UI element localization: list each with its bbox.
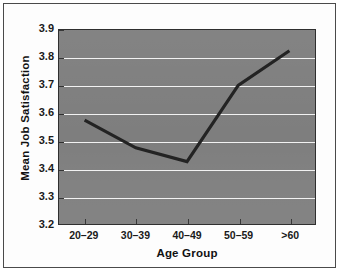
x-tick-label: 50–59: [224, 229, 253, 241]
y-tick-label: 3.4: [20, 163, 54, 174]
figure-frame: Mean Job Satisfaction 3.23.33.43.53.63.7…: [3, 3, 336, 268]
y-tick-label: 3.8: [20, 51, 54, 62]
y-tick-label: 3.2: [20, 219, 54, 230]
x-axis-tick-labels: 20–2930–3940–4950–59>60: [58, 229, 316, 245]
x-tick-label: 40–49: [172, 229, 201, 241]
x-tick-label: 20–29: [69, 229, 98, 241]
x-axis-title: Age Group: [58, 247, 316, 259]
y-tick-label: 3.6: [20, 107, 54, 118]
y-axis-tick-labels: 3.23.33.43.53.63.73.83.9: [14, 29, 54, 225]
series-polyline: [85, 51, 290, 162]
plot-area: [58, 29, 316, 225]
y-tick-label: 3.9: [20, 23, 54, 34]
plot-wrap: [58, 29, 316, 225]
y-tick-label: 3.3: [20, 191, 54, 202]
y-tick-label: 3.5: [20, 135, 54, 146]
x-tick-label: 30–39: [121, 229, 150, 241]
series-line-chart: [59, 30, 315, 224]
x-tick-label: >60: [281, 229, 299, 241]
y-tick-label: 3.7: [20, 79, 54, 90]
